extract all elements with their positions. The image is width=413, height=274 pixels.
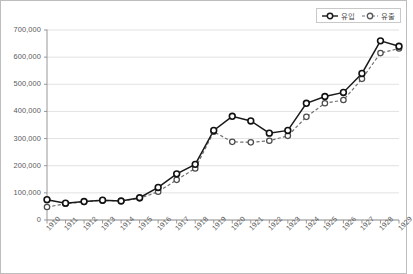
legend-item-outflow: 유출	[362, 10, 395, 21]
legend-item-inflow: 유입	[322, 10, 355, 21]
y-axis-tick-label: 400,000	[1, 106, 41, 115]
y-axis-tick-label: 700,000	[1, 25, 41, 34]
y-axis-tick-label: 600,000	[1, 52, 41, 61]
chart-legend: 유입 유출	[316, 8, 401, 23]
y-axis-tick-label: 0	[1, 215, 41, 224]
legend-marker-outflow-icon	[362, 11, 378, 21]
y-axis-tick-label: 500,000	[1, 79, 41, 88]
y-axis-tick-label: 300,000	[1, 134, 41, 143]
legend-label-inflow: 유입	[341, 10, 355, 21]
legend-marker-inflow-icon	[322, 11, 338, 21]
plot-background	[47, 30, 399, 220]
legend-label-outflow: 유출	[381, 10, 395, 21]
y-axis-tick-label: 200,000	[1, 161, 41, 170]
y-axis-tick-label: 100,000	[1, 188, 41, 197]
